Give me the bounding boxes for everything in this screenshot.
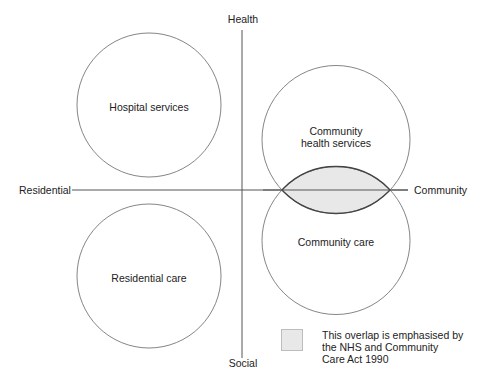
legend-line-3: Care Act 1990 bbox=[322, 353, 482, 365]
legend-text: This overlap is emphasised by the NHS an… bbox=[322, 329, 482, 365]
legend-swatch bbox=[281, 329, 303, 351]
community-health-label: Community health services bbox=[301, 125, 371, 149]
legend-line-1: This overlap is emphasised by bbox=[322, 329, 482, 341]
residential-care-label: Residential care bbox=[111, 272, 186, 284]
diagram-canvas bbox=[0, 0, 483, 381]
axis-label-residential: Residential bbox=[19, 184, 71, 196]
community-health-label-line1: Community bbox=[301, 125, 371, 137]
community-health-label-line2: health services bbox=[301, 137, 371, 149]
axis-label-health: Health bbox=[228, 13, 258, 25]
legend-line-2: the NHS and Community bbox=[322, 341, 482, 353]
axis-label-community: Community bbox=[414, 184, 467, 196]
community-care-label: Community care bbox=[298, 236, 374, 248]
hospital-services-label: Hospital services bbox=[109, 101, 188, 113]
axis-label-social: Social bbox=[229, 357, 258, 369]
